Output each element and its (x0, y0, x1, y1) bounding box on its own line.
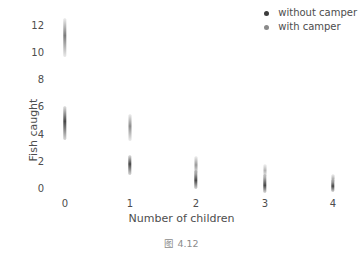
legend-item-without-camper[interactable]: without camper (260, 8, 357, 18)
legend-marker-icon (264, 11, 269, 16)
x-tick-label: 3 (262, 198, 268, 209)
y-tick-label: 0 (38, 183, 44, 194)
data-mark-without-camper-x1 (128, 155, 131, 175)
figure-caption: 图 4.12 (0, 236, 363, 250)
data-mark-with-camper-x0 (63, 18, 66, 57)
figure-canvas: 12 10 8 6 4 2 0 Fish caught 0 1 2 3 4 Nu… (0, 0, 363, 260)
data-mark-with-camper-x3 (264, 164, 267, 177)
chart-legend: without camper with camper (260, 8, 357, 32)
legend-marker-icon (264, 25, 269, 30)
y-tick-label: 12 (31, 20, 44, 31)
y-tick-label: 8 (38, 74, 44, 85)
x-tick-label: 1 (127, 198, 133, 209)
data-mark-with-camper-x2 (195, 156, 198, 174)
data-mark-with-camper-x1 (129, 114, 132, 141)
y-axis-title: Fish caught (27, 99, 40, 162)
y-tick-label: 10 (31, 47, 44, 58)
legend-item-with-camper[interactable]: with camper (260, 22, 357, 32)
x-tick-label: 2 (193, 198, 199, 209)
x-tick-label: 4 (330, 198, 336, 209)
x-axis-title: Number of children (0, 212, 363, 225)
plot-area (48, 14, 353, 190)
legend-item-label: without camper (278, 8, 357, 18)
data-mark-with-camper-x4 (332, 174, 335, 183)
x-tick-label: 0 (62, 198, 68, 209)
data-mark-without-camper-x0 (63, 106, 66, 140)
legend-item-label: with camper (278, 22, 340, 32)
